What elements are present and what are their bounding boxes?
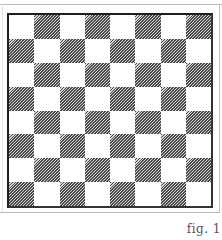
frame-left-rule (2, 4, 3, 213)
hatched-square (135, 15, 160, 39)
light-square (60, 111, 85, 135)
light-square (9, 15, 34, 39)
hatched-square (9, 182, 34, 206)
hatched-square (9, 134, 34, 158)
hatched-square (110, 39, 135, 63)
light-square (110, 158, 135, 182)
light-square (85, 87, 110, 111)
hatched-square (135, 63, 160, 87)
light-square (34, 87, 59, 111)
hatched-square (110, 134, 135, 158)
light-square (9, 111, 34, 135)
hatched-square (161, 182, 186, 206)
light-square (110, 63, 135, 87)
hatched-square (34, 111, 59, 135)
hatched-square (110, 182, 135, 206)
light-square (85, 134, 110, 158)
light-square (161, 63, 186, 87)
hatched-square (186, 158, 211, 182)
hatched-square (110, 87, 135, 111)
hatched-square (85, 158, 110, 182)
light-square (186, 39, 211, 63)
light-square (186, 182, 211, 206)
frame-right-rule (219, 4, 220, 213)
hatched-square (135, 158, 160, 182)
light-square (85, 182, 110, 206)
light-square (186, 134, 211, 158)
light-square (110, 15, 135, 39)
hatched-square (34, 158, 59, 182)
hatched-square (161, 87, 186, 111)
light-square (9, 63, 34, 87)
hatched-square (186, 111, 211, 135)
light-square (135, 39, 160, 63)
light-square (60, 158, 85, 182)
hatched-square (60, 182, 85, 206)
checkerboard-figure (7, 13, 213, 208)
light-square (161, 158, 186, 182)
hatched-square (9, 87, 34, 111)
light-square (110, 111, 135, 135)
hatched-square (161, 39, 186, 63)
light-square (135, 134, 160, 158)
hatched-square (85, 63, 110, 87)
light-square (135, 87, 160, 111)
light-square (34, 182, 59, 206)
light-square (60, 15, 85, 39)
light-square (186, 87, 211, 111)
hatched-square (60, 134, 85, 158)
hatched-square (85, 111, 110, 135)
light-square (161, 111, 186, 135)
light-square (34, 39, 59, 63)
hatched-square (34, 63, 59, 87)
light-square (161, 15, 186, 39)
top-rule (0, 4, 222, 5)
hatched-square (34, 15, 59, 39)
hatched-square (9, 39, 34, 63)
light-square (34, 134, 59, 158)
hatched-square (85, 15, 110, 39)
hatched-square (60, 39, 85, 63)
hatched-square (135, 111, 160, 135)
figure-caption: fig. 1 (187, 222, 221, 236)
hatched-square (186, 15, 211, 39)
light-square (60, 63, 85, 87)
light-square (9, 158, 34, 182)
light-square (135, 182, 160, 206)
bottom-rule (0, 212, 220, 213)
hatched-square (186, 63, 211, 87)
light-square (85, 39, 110, 63)
hatched-square (60, 87, 85, 111)
hatched-square (161, 134, 186, 158)
